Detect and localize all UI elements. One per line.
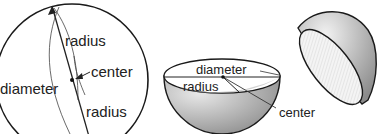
center-point — [70, 78, 74, 82]
label-diameter: diameter — [0, 80, 58, 97]
label-radius-bottom: radius — [86, 103, 127, 120]
label-radius-top: radius — [65, 32, 106, 49]
bowl-label-diameter: diameter — [196, 62, 247, 77]
bowl-label-radius: radius — [183, 79, 219, 94]
label-center: center — [91, 63, 133, 80]
bowl-label-center: center — [279, 105, 316, 120]
sphere-panel: radius center diameter radius — [0, 4, 148, 134]
hemisphere-cap-panel — [288, 12, 376, 114]
sphere-diagram: radius center diameter radius diameter r… — [0, 0, 378, 134]
hemisphere-bowl-panel: diameter radius center — [164, 59, 316, 134]
